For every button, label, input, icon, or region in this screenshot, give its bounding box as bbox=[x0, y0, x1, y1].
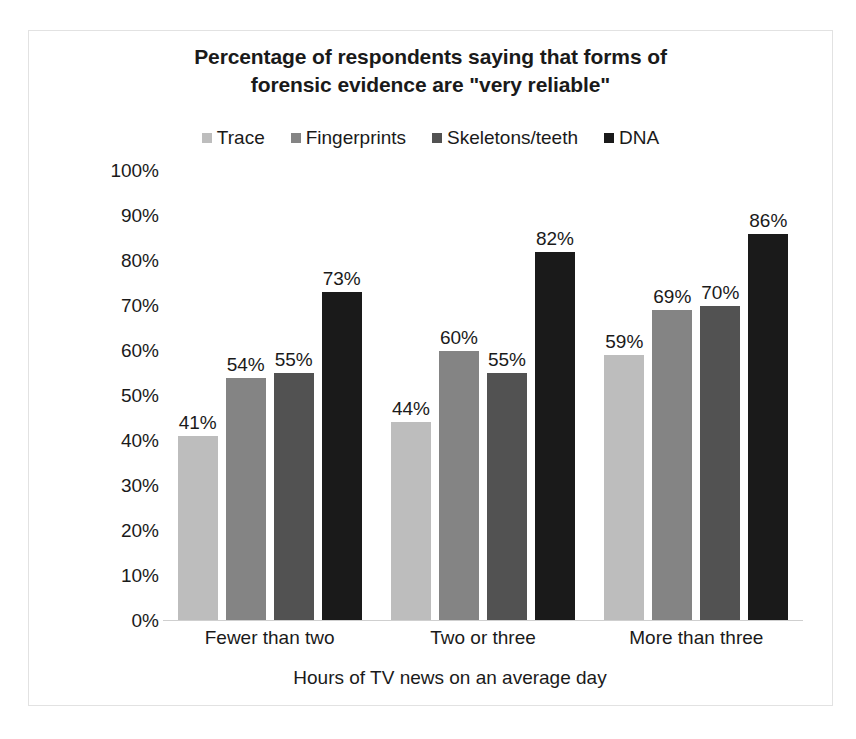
bar-rect[interactable] bbox=[178, 436, 218, 620]
bar-value-label: 55% bbox=[259, 350, 329, 369]
legend-item-dna[interactable]: DNA bbox=[604, 127, 659, 149]
bar-skeletons-teeth[interactable]: 70% bbox=[700, 171, 740, 620]
legend-swatch-icon bbox=[432, 133, 442, 143]
legend-label: DNA bbox=[619, 127, 659, 149]
chart-title-line-2: forensic evidence are "very reliable" bbox=[99, 71, 762, 99]
y-axis: 100% 90% 80% 70% 60% 50% 40% 30% 20% 10%… bbox=[97, 171, 159, 621]
bar-rect[interactable] bbox=[274, 373, 314, 620]
bar-rect[interactable] bbox=[535, 252, 575, 620]
x-axis-baseline bbox=[163, 620, 803, 621]
legend-swatch-icon bbox=[604, 133, 614, 143]
bar-dna[interactable]: 82% bbox=[535, 171, 575, 620]
bar-group-more-than-three: 59% 69% 70% 86% bbox=[590, 171, 803, 620]
legend-item-fingerprints[interactable]: Fingerprints bbox=[291, 127, 406, 149]
bar-fingerprints[interactable]: 60% bbox=[439, 171, 479, 620]
y-tick-label: 90% bbox=[121, 205, 159, 227]
y-tick-label: 70% bbox=[121, 295, 159, 317]
bar-rect[interactable] bbox=[604, 355, 644, 620]
y-tick-label: 80% bbox=[121, 250, 159, 272]
bar-value-label: 55% bbox=[472, 350, 542, 369]
bar-value-label: 41% bbox=[163, 413, 233, 432]
bar-value-label: 60% bbox=[424, 328, 494, 347]
x-category-label: Fewer than two bbox=[163, 627, 376, 649]
x-category-label: Two or three bbox=[376, 627, 589, 649]
bar-rect[interactable] bbox=[322, 292, 362, 620]
bar-value-label: 73% bbox=[307, 269, 377, 288]
legend-item-trace[interactable]: Trace bbox=[202, 127, 265, 149]
chart-title: Percentage of respondents saying that fo… bbox=[29, 43, 832, 98]
bar-value-label: 44% bbox=[376, 399, 446, 418]
y-tick-label: 50% bbox=[121, 385, 159, 407]
legend-label: Trace bbox=[217, 127, 265, 149]
bar-fingerprints[interactable]: 69% bbox=[652, 171, 692, 620]
bar-dna[interactable]: 86% bbox=[748, 171, 788, 620]
legend-swatch-icon bbox=[291, 133, 301, 143]
bar-value-label: 70% bbox=[685, 283, 755, 302]
y-tick-label: 40% bbox=[121, 430, 159, 452]
bar-value-label: 82% bbox=[520, 229, 590, 248]
legend-swatch-icon bbox=[202, 133, 212, 143]
bar-group-two-or-three: 44% 60% 55% 82% bbox=[376, 171, 589, 620]
bar-trace[interactable]: 59% bbox=[604, 171, 644, 620]
bar-rect[interactable] bbox=[748, 234, 788, 620]
y-tick-label: 60% bbox=[121, 340, 159, 362]
bar-groups: 41% 54% 55% 73% 44% bbox=[163, 171, 803, 620]
chart-title-line-1: Percentage of respondents saying that fo… bbox=[99, 43, 762, 71]
y-tick-label: 100% bbox=[110, 160, 159, 182]
x-category-label: More than three bbox=[590, 627, 803, 649]
bar-skeletons-teeth[interactable]: 55% bbox=[274, 171, 314, 620]
x-axis-title: Hours of TV news on an average day bbox=[97, 667, 803, 689]
x-axis-categories: Fewer than two Two or three More than th… bbox=[97, 627, 803, 657]
bar-value-label: 59% bbox=[589, 332, 659, 351]
y-tick-label: 30% bbox=[121, 475, 159, 497]
y-tick-label: 10% bbox=[121, 565, 159, 587]
chart-frame: Percentage of respondents saying that fo… bbox=[28, 30, 833, 706]
bar-trace[interactable]: 41% bbox=[178, 171, 218, 620]
bar-rect[interactable] bbox=[700, 306, 740, 620]
bar-group-fewer-than-two: 41% 54% 55% 73% bbox=[163, 171, 376, 620]
bar-dna[interactable]: 73% bbox=[322, 171, 362, 620]
bar-rect[interactable] bbox=[439, 351, 479, 620]
bar-rect[interactable] bbox=[652, 310, 692, 620]
bar-fingerprints[interactable]: 54% bbox=[226, 171, 266, 620]
plot-area: 100% 90% 80% 70% 60% 50% 40% 30% 20% 10%… bbox=[97, 171, 803, 621]
bar-trace[interactable]: 44% bbox=[391, 171, 431, 620]
bar-value-label: 86% bbox=[733, 211, 803, 230]
bar-rect[interactable] bbox=[226, 378, 266, 620]
bar-rect[interactable] bbox=[391, 422, 431, 620]
y-tick-label: 20% bbox=[121, 520, 159, 542]
legend-label: Fingerprints bbox=[306, 127, 406, 149]
legend-label: Skeletons/teeth bbox=[447, 127, 578, 149]
bar-rect[interactable] bbox=[487, 373, 527, 620]
legend-item-skeletons-teeth[interactable]: Skeletons/teeth bbox=[432, 127, 578, 149]
chart-legend: Trace Fingerprints Skeletons/teeth DNA bbox=[29, 127, 832, 149]
